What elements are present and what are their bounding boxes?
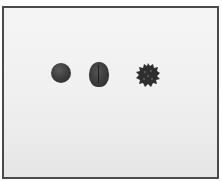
spiky-seed [135,62,161,88]
seed-groove [98,65,99,83]
photo-frame [2,6,219,179]
oval-seed [89,62,109,87]
round-seed [51,63,71,83]
